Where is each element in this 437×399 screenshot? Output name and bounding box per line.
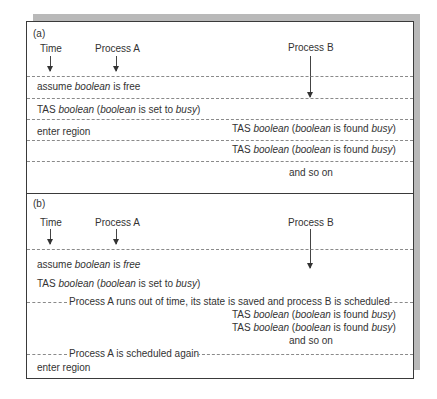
figure-frame: (a) Time Process A Process B assume bool… bbox=[26, 21, 414, 379]
row-separator bbox=[27, 249, 413, 250]
event-reschedule: Process A is scheduled again bbox=[69, 348, 199, 360]
event-dash-right bbox=[384, 302, 413, 303]
row-separator bbox=[27, 140, 413, 141]
event-context-switch: Process A runs out of time, its state is… bbox=[69, 296, 390, 308]
process-b-header: Process B bbox=[288, 217, 334, 229]
panel-a-label: (a) bbox=[33, 28, 45, 40]
panel-b-label: (b) bbox=[33, 198, 45, 210]
b-process-a-line3: enter region bbox=[37, 362, 90, 374]
b-process-b-line2: TAS boolean (boolean is found busy) bbox=[232, 322, 396, 334]
process-a-arrow-icon bbox=[116, 229, 117, 244]
b-process-b-line1: TAS boolean (boolean is found busy) bbox=[232, 309, 396, 321]
event-dash-right bbox=[197, 354, 413, 355]
process-a-arrow-icon bbox=[116, 56, 117, 71]
event-dash-left bbox=[27, 354, 67, 355]
row-a3-process-a: enter region bbox=[37, 126, 90, 138]
row-separator bbox=[27, 98, 413, 99]
time-arrow-icon bbox=[50, 56, 51, 71]
time-header: Time bbox=[40, 217, 62, 229]
event-dash-left bbox=[27, 302, 67, 303]
process-a-header: Process A bbox=[95, 43, 140, 55]
b-process-b-line3: and so on bbox=[289, 335, 333, 347]
time-header: Time bbox=[40, 43, 62, 55]
b-process-a-line1: assume boolean is free bbox=[37, 259, 140, 271]
b-process-a-line2: TAS boolean (boolean is set to busy) bbox=[37, 278, 200, 290]
row-a5-process-b: and so on bbox=[289, 167, 333, 179]
process-a-header: Process A bbox=[95, 217, 140, 229]
row-a3-process-b: TAS boolean (boolean is found busy) bbox=[232, 123, 396, 135]
time-arrow-icon bbox=[50, 229, 51, 244]
row-a4-process-b: TAS boolean (boolean is found busy) bbox=[232, 144, 396, 156]
row-a2-process-a: TAS boolean (boolean is set to busy) bbox=[37, 104, 200, 116]
row-separator bbox=[27, 119, 413, 120]
panel-divider bbox=[27, 193, 413, 194]
row-separator bbox=[27, 76, 413, 77]
row-a1-process-a: assume boolean is free bbox=[37, 81, 140, 93]
row-separator bbox=[27, 161, 413, 162]
process-b-header: Process B bbox=[288, 42, 334, 54]
